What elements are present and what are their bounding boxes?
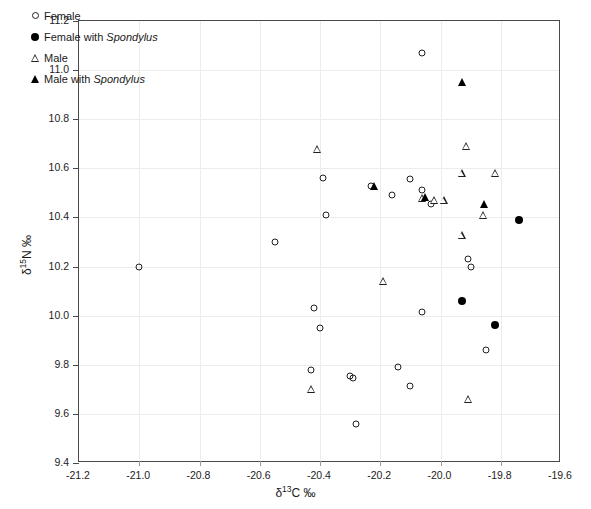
x-axis-tick-label: -19.8 xyxy=(476,469,524,481)
data-point-open-triangle xyxy=(491,169,499,177)
x-axis-tick xyxy=(200,461,201,466)
gridline-vertical xyxy=(320,21,321,461)
gridline-vertical xyxy=(260,21,261,461)
y-axis-tick-label: 10.6 xyxy=(29,161,69,173)
data-point-open-triangle xyxy=(479,211,487,219)
data-point-open-circle xyxy=(419,308,426,315)
y-axis-tick xyxy=(73,168,79,169)
data-point-open-triangle xyxy=(379,277,387,285)
data-point-open-triangle xyxy=(458,231,466,239)
y-axis-tick xyxy=(73,267,79,268)
x-axis-tick-label: -20.6 xyxy=(235,469,283,481)
x-axis-tick-label: -19.6 xyxy=(536,469,584,481)
legend-item-label: Male xyxy=(44,52,68,64)
y-axis-tick-label: 9.8 xyxy=(29,358,69,370)
axis-title-superscript: 13 xyxy=(282,484,291,494)
x-axis-tick-label: -20.2 xyxy=(355,469,403,481)
gridline-horizontal xyxy=(79,217,559,218)
y-axis-tick-label: 10.0 xyxy=(29,309,69,321)
data-point-open-circle xyxy=(307,366,314,373)
axis-title-superscript: 15 xyxy=(18,258,28,267)
data-point-filled-circle xyxy=(491,321,499,329)
x-axis-title: δ13C ‰ xyxy=(0,484,591,500)
legend-marker-open-triangle-icon xyxy=(26,54,44,62)
data-point-open-circle xyxy=(389,192,396,199)
data-point-open-triangle xyxy=(307,385,315,393)
y-axis-tick xyxy=(73,217,79,218)
x-axis-tick xyxy=(320,461,321,466)
data-point-open-triangle xyxy=(458,169,466,177)
y-axis-tick xyxy=(73,316,79,317)
y-axis-tick-label: 10.8 xyxy=(29,112,69,124)
gridline-vertical xyxy=(200,21,201,461)
data-point-open-circle xyxy=(320,175,327,182)
y-axis-tick-label: 11.0 xyxy=(29,63,69,75)
data-point-open-circle xyxy=(407,382,414,389)
y-axis-tick xyxy=(73,119,79,120)
data-point-open-circle xyxy=(419,49,426,56)
x-axis-tick-label: -21.2 xyxy=(54,469,102,481)
data-point-open-circle xyxy=(467,263,474,270)
data-point-filled-triangle xyxy=(480,200,488,208)
x-axis-tick-label: -21.0 xyxy=(114,469,162,481)
legend-marker-filled-triangle-icon xyxy=(26,75,44,83)
data-point-open-triangle xyxy=(464,395,472,403)
gridline-horizontal xyxy=(79,267,559,268)
y-axis-tick xyxy=(73,463,79,464)
gridline-horizontal xyxy=(79,168,559,169)
data-point-open-triangle xyxy=(462,142,470,150)
data-point-filled-triangle xyxy=(421,193,429,201)
data-point-filled-circle xyxy=(515,216,523,224)
x-axis-tick xyxy=(501,461,502,466)
y-axis-tick xyxy=(73,365,79,366)
y-axis-tick-label: 10.2 xyxy=(29,260,69,272)
y-axis-tick-label: 11.2 xyxy=(29,14,69,26)
x-axis-tick xyxy=(441,461,442,466)
legend-item-filled-circle: Female with Spondylus xyxy=(26,26,158,47)
gridline-vertical xyxy=(380,21,381,461)
gridline-horizontal xyxy=(79,414,559,415)
data-point-open-triangle xyxy=(430,196,438,204)
data-point-open-circle xyxy=(350,375,357,382)
data-point-open-circle xyxy=(310,305,317,312)
gridline-vertical xyxy=(501,21,502,461)
x-axis-tick-label: -20.8 xyxy=(175,469,223,481)
y-axis-tick-label: 9.4 xyxy=(29,456,69,468)
data-point-open-circle xyxy=(136,263,143,270)
data-point-open-circle xyxy=(323,211,330,218)
gridline-vertical xyxy=(441,21,442,461)
data-point-open-circle xyxy=(395,364,402,371)
x-axis-tick xyxy=(380,461,381,466)
data-point-open-circle xyxy=(271,239,278,246)
data-point-filled-triangle xyxy=(458,78,466,86)
y-axis-tick-label: 10.4 xyxy=(29,210,69,222)
data-point-open-triangle xyxy=(313,145,321,153)
data-point-open-triangle xyxy=(440,196,448,204)
gridline-horizontal xyxy=(79,316,559,317)
data-point-open-circle xyxy=(482,347,489,354)
y-axis-tick-label: 9.6 xyxy=(29,407,69,419)
data-point-open-circle xyxy=(464,256,471,263)
data-point-filled-triangle xyxy=(370,182,378,190)
data-point-open-circle xyxy=(407,176,414,183)
data-point-filled-circle xyxy=(458,297,466,305)
gridline-horizontal xyxy=(79,365,559,366)
x-axis-tick xyxy=(139,461,140,466)
legend-item-label: Female with Spondylus xyxy=(44,31,158,43)
x-axis-tick xyxy=(260,461,261,466)
gridline-horizontal xyxy=(79,119,559,120)
legend-marker-filled-circle-icon xyxy=(26,33,44,41)
data-point-open-circle xyxy=(353,420,360,427)
scatter-plot-figure: FemaleFemale with SpondylusMaleMale with… xyxy=(0,0,591,509)
y-axis-tick xyxy=(73,414,79,415)
x-axis-tick-label: -20.0 xyxy=(416,469,464,481)
data-point-open-circle xyxy=(317,324,324,331)
x-axis-tick-label: -20.4 xyxy=(295,469,343,481)
